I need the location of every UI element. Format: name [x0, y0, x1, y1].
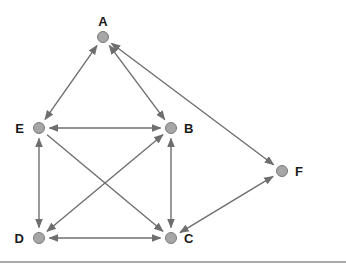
node-e: E: [15, 121, 44, 136]
node-label: F: [295, 164, 303, 179]
node-circle-icon: [98, 32, 109, 43]
edge-a-f: [111, 43, 273, 164]
bottom-divider: [0, 261, 346, 263]
node-d: D: [15, 231, 45, 246]
edge-f-c: [180, 176, 273, 232]
node-circle-icon: [166, 123, 177, 134]
edges-group: [39, 43, 274, 238]
node-label: B: [184, 121, 193, 136]
node-b: B: [166, 121, 194, 136]
graph-diagram: AEBFDC: [0, 0, 346, 269]
node-label: A: [98, 14, 108, 29]
node-circle-icon: [34, 233, 45, 244]
edge-a-e: [45, 46, 97, 120]
edge-a-b: [109, 45, 164, 119]
nodes-group: AEBFDC: [15, 14, 303, 246]
node-c: C: [166, 231, 195, 246]
node-label: C: [184, 231, 194, 246]
node-a: A: [98, 14, 109, 43]
node-circle-icon: [166, 233, 177, 244]
node-f: F: [277, 164, 304, 179]
node-circle-icon: [34, 123, 45, 134]
graph-canvas: AEBFDC: [0, 0, 346, 269]
node-circle-icon: [277, 166, 288, 177]
node-label: E: [15, 121, 24, 136]
node-label: D: [15, 231, 24, 246]
